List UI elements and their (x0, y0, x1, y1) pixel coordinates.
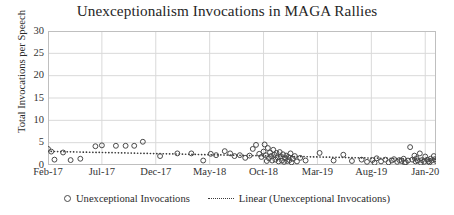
y-axis-title: Total Invocations per Speech (16, 4, 27, 140)
data-point (201, 158, 206, 163)
data-point (222, 149, 227, 154)
y-axis-tick-label: 20 (34, 70, 45, 81)
data-point (78, 156, 83, 161)
chart-title: Unexceptionalism Invocations in MAGA Ral… (0, 2, 454, 20)
y-axis-tick-label: 10 (34, 115, 45, 126)
data-point (349, 159, 354, 164)
plot-area (48, 31, 436, 165)
data-point (365, 159, 370, 164)
data-point (417, 151, 422, 156)
gridlines (48, 31, 436, 165)
x-axis-tick-label: Jul-17 (89, 167, 115, 178)
y-axis-tick-label: 5 (39, 137, 44, 148)
x-axis-tick-label: Aug-19 (355, 167, 387, 178)
dotted-line-marker-icon (208, 198, 234, 199)
data-point (113, 143, 118, 148)
data-point (52, 157, 57, 162)
data-point (303, 158, 308, 163)
x-axis-tick-label: Mar-19 (302, 167, 333, 178)
chart-legend: Unexceptional Invocations Linear (Unexce… (0, 193, 454, 204)
legend-label-scatter: Unexceptional Invocations (76, 193, 190, 204)
data-point (208, 151, 213, 156)
legend-label-trendline: Linear (Unexceptional Invocations) (239, 193, 390, 204)
legend-item-trendline[interactable]: Linear (Unexceptional Invocations) (208, 193, 390, 204)
data-point (232, 154, 237, 159)
data-point (341, 152, 346, 157)
x-axis-tick-label: Oct-18 (249, 167, 278, 178)
y-axis-tick-label: 30 (34, 26, 45, 37)
x-axis-tick-labels: Feb-17Jul-17Dec-17May-18Oct-18Mar-19Aug-… (48, 167, 436, 181)
x-axis-tick-label: Jan-20 (411, 167, 439, 178)
data-point (68, 158, 73, 163)
open-circle-marker-icon (64, 195, 71, 202)
data-point (123, 143, 128, 148)
legend-item-scatter[interactable]: Unexceptional Invocations (64, 193, 190, 204)
plot-svg (48, 31, 436, 165)
y-axis-tick-label: 25 (34, 48, 45, 59)
data-point (132, 143, 137, 148)
data-point (331, 158, 336, 163)
y-axis-tick-label: 15 (34, 93, 45, 104)
x-axis-tick-label: Feb-17 (33, 167, 63, 178)
x-axis-tick-label: Dec-17 (140, 167, 171, 178)
data-point (93, 144, 98, 149)
data-point (189, 151, 194, 156)
x-axis-tick-label: May-18 (193, 167, 226, 178)
data-point (61, 150, 66, 155)
data-point (383, 157, 388, 162)
data-point (140, 139, 145, 144)
chart-container: Unexceptionalism Invocations in MAGA Ral… (0, 0, 454, 215)
data-point (408, 145, 413, 150)
data-point (254, 142, 259, 147)
